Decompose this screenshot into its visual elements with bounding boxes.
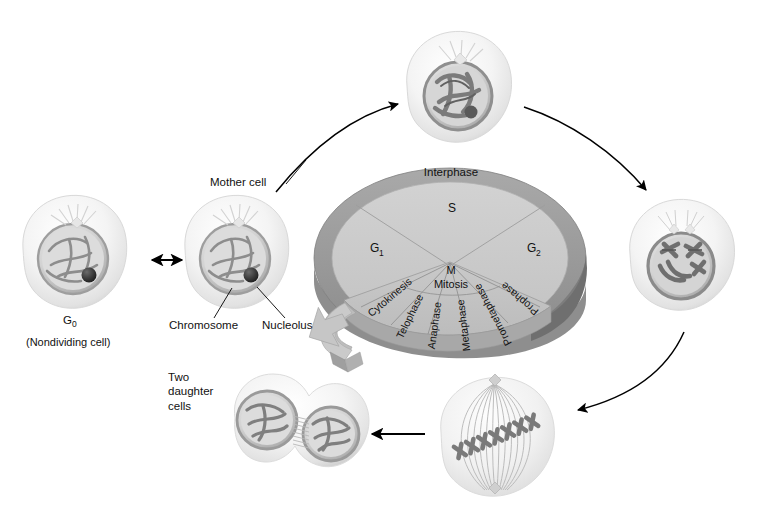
m-phase-long-label: Mitosis xyxy=(434,278,469,290)
g1-sector-letter: G xyxy=(370,241,379,255)
wheel-text-layer: Interphase S G 1 G 2 M Mitosis Cytokines… xyxy=(0,0,759,519)
mitosis-sector-metaphase: Metaphase xyxy=(454,299,472,352)
mitosis-sector-telophase: Telophase xyxy=(394,292,426,340)
m-phase-short-label: M xyxy=(446,264,455,276)
g1-sector-label: G 1 xyxy=(370,241,384,258)
mitosis-sector-prophase: Prophase xyxy=(498,280,540,318)
g1-sector-subscript: 1 xyxy=(379,248,384,258)
cell-cycle-diagram: G0 (Nondividing cell) Mother cell Chromo… xyxy=(0,0,759,519)
g2-sector-letter: G xyxy=(527,241,536,255)
g2-sector-label: G 2 xyxy=(527,241,541,258)
interphase-label: Interphase xyxy=(424,166,478,178)
g2-sector-subscript: 2 xyxy=(536,248,541,258)
s-sector-label: S xyxy=(448,201,456,215)
mitosis-sector-anaphase: Anaphase xyxy=(425,301,443,350)
